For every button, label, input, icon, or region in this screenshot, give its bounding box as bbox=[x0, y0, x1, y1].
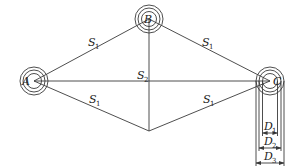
svg-text:1: 1 bbox=[272, 127, 276, 135]
svg-text:2: 2 bbox=[272, 142, 276, 150]
label-c: C bbox=[273, 75, 282, 88]
label-d3: D 3 bbox=[263, 150, 276, 165]
label-d1: D 1 bbox=[263, 120, 276, 135]
edges bbox=[34, 19, 270, 131]
label-s1-dc: S 1 bbox=[203, 93, 214, 108]
svg-text:1: 1 bbox=[210, 100, 214, 108]
label-s1-ab: S 1 bbox=[88, 36, 99, 51]
svg-text:3: 3 bbox=[272, 157, 276, 165]
label-d2: D 2 bbox=[263, 135, 276, 150]
svg-text:2: 2 bbox=[144, 76, 148, 84]
svg-text:1: 1 bbox=[95, 43, 99, 51]
edge-a-b bbox=[34, 19, 149, 81]
label-s1-ad: S 1 bbox=[89, 93, 100, 108]
edge-a-bottom bbox=[34, 81, 149, 131]
label-s2: S 2 bbox=[137, 69, 148, 84]
svg-text:1: 1 bbox=[209, 43, 213, 51]
label-s1-bc: S 1 bbox=[202, 36, 213, 51]
label-b: B bbox=[143, 13, 152, 26]
label-a: A bbox=[21, 75, 30, 88]
svg-text:1: 1 bbox=[96, 100, 100, 108]
diagram-canvas: A B C S 1 S 1 S 2 S 1 S 1 D 1 D 2 D 3 bbox=[0, 0, 298, 168]
